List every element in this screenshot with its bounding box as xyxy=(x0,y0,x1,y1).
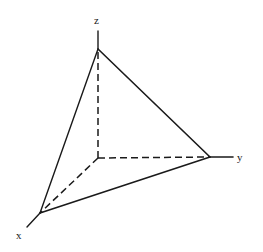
edge-x-to-y xyxy=(40,157,210,213)
edge-z-to-x xyxy=(40,49,98,213)
axis-label-y: y xyxy=(237,152,243,163)
axis-label-z: z xyxy=(94,15,99,26)
edge-z-to-y xyxy=(98,49,210,157)
axis-label-x: x xyxy=(16,230,22,241)
tetrahedron-drawing xyxy=(0,0,263,252)
tetrahedron-figure: z y x xyxy=(0,0,263,252)
edge-origin-to-x xyxy=(40,158,98,213)
edge-origin-to-y xyxy=(98,157,210,158)
axis-stubs-group xyxy=(27,31,233,227)
x-axis-stub xyxy=(27,213,40,227)
dashed-edges-group xyxy=(40,49,210,213)
